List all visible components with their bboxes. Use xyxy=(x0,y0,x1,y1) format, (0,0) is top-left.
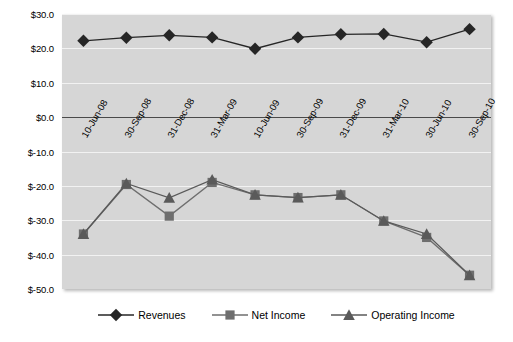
diamond-data-point xyxy=(420,36,432,48)
square-data-point xyxy=(225,310,234,319)
diamond-marker-icon xyxy=(98,308,134,322)
y-axis-tick-label: $-20.0 xyxy=(28,180,54,191)
legend-item-operating-income[interactable]: Operating Income xyxy=(331,308,454,322)
y-axis-tick-label: $-10.0 xyxy=(28,146,54,157)
diamond-data-point xyxy=(463,23,475,35)
line-chart: $30.0$20.0$10.0$0.0$-10.0$-20.0$-30.0$-4… xyxy=(0,0,513,342)
diamond-data-point xyxy=(163,29,175,41)
diamond-data-point xyxy=(120,32,132,44)
diamond-data-point xyxy=(335,28,347,40)
triangle-marker-icon xyxy=(331,308,367,322)
series-line xyxy=(83,29,469,49)
y-axis: $30.0$20.0$10.0$0.0$-10.0$-20.0$-30.0$-4… xyxy=(0,14,58,289)
diamond-data-point xyxy=(249,43,261,55)
diamond-data-point xyxy=(378,28,390,40)
y-axis-tick-label: $20.0 xyxy=(31,43,54,54)
diamond-data-point xyxy=(77,35,89,47)
y-axis-tick-label: $30.0 xyxy=(31,9,54,20)
y-axis-tick-label: $0.0 xyxy=(36,112,54,123)
legend-label: Revenues xyxy=(138,309,185,321)
diamond-data-point xyxy=(110,309,122,321)
y-axis-tick-label: $10.0 xyxy=(31,77,54,88)
legend-item-revenues[interactable]: Revenues xyxy=(98,308,185,322)
diamond-data-point xyxy=(292,31,304,43)
series-revenues xyxy=(77,23,476,55)
chart-legend: RevenuesNet IncomeOperating Income xyxy=(62,303,491,327)
legend-label: Operating Income xyxy=(371,309,454,321)
y-axis-tick-label: $-30.0 xyxy=(28,215,54,226)
legend-item-net-income[interactable]: Net Income xyxy=(212,308,306,322)
y-axis-tick-label: $-40.0 xyxy=(28,249,54,260)
y-axis-tick-label: $-50.0 xyxy=(28,284,54,295)
x-axis: 10-Jun-0830-Sep-0831-Dec-0831-Mar-0910-J… xyxy=(62,134,491,214)
square-marker-icon xyxy=(212,308,248,322)
legend-label: Net Income xyxy=(252,309,306,321)
diamond-data-point xyxy=(206,31,218,43)
